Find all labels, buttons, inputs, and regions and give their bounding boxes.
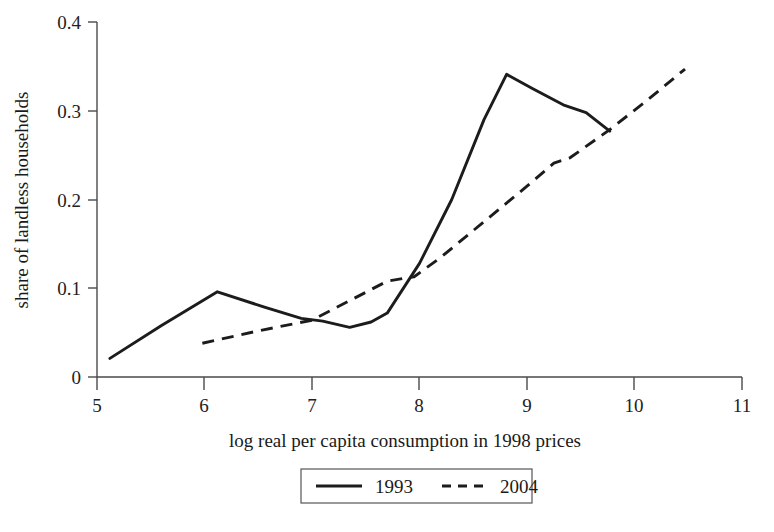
chart-legend: 1993 2004	[301, 469, 539, 503]
y-tick-label-0.4: 0.4	[57, 12, 81, 33]
legend-label-2004: 2004	[500, 476, 539, 497]
legend-label-1993: 1993	[375, 476, 413, 497]
chart-figure: 0.4 0.3 0.2 0.1 0 share of landless hous…	[0, 0, 774, 532]
y-tick-label-0.2: 0.2	[57, 190, 81, 211]
y-tick-label-0: 0	[72, 367, 82, 388]
x-axis: 5 6 7 8 9 10 11 log real per capita cons…	[92, 377, 751, 451]
y-axis: 0.4 0.3 0.2 0.1 0 share of landless hous…	[11, 12, 97, 388]
y-tick-label-0.1: 0.1	[57, 278, 81, 299]
y-axis-title: share of landless households	[11, 92, 32, 309]
y-tick-label-0.3: 0.3	[57, 101, 81, 122]
series-line-1993	[110, 74, 610, 358]
chart-svg: 0.4 0.3 0.2 0.1 0 share of landless hous…	[0, 0, 774, 532]
x-tick-label-6: 6	[199, 395, 209, 416]
x-tick-label-8: 8	[414, 395, 424, 416]
x-tick-label-11: 11	[733, 395, 751, 416]
series-line-2004	[202, 69, 685, 343]
x-tick-label-10: 10	[625, 395, 644, 416]
x-tick-label-9: 9	[522, 395, 532, 416]
x-tick-label-5: 5	[92, 395, 102, 416]
x-tick-label-7: 7	[307, 395, 317, 416]
x-axis-title: log real per capita consumption in 1998 …	[229, 430, 581, 451]
plot-area	[110, 69, 685, 358]
